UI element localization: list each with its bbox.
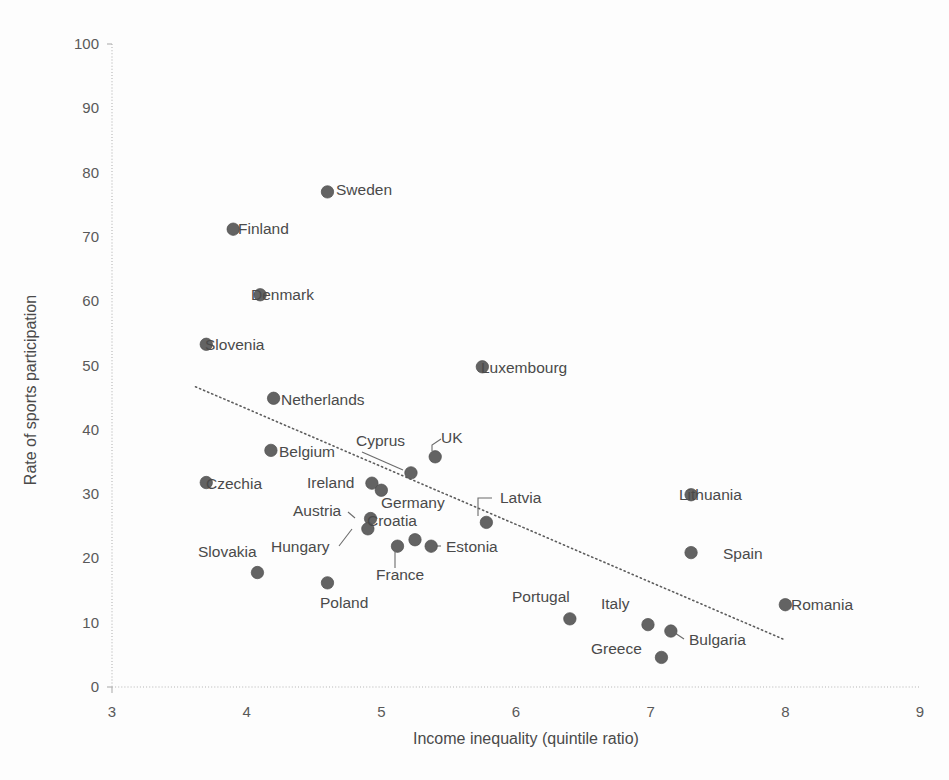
data-point-label: Slovakia	[198, 543, 257, 560]
x-tick-label: 4	[242, 703, 250, 720]
data-point-label: Sweden	[336, 181, 392, 198]
data-point-label: Latvia	[500, 489, 542, 506]
trendline-group	[195, 387, 785, 640]
data-point-label: Slovenia	[205, 336, 265, 353]
data-point-label: Estonia	[446, 538, 498, 555]
y-tick-label: 20	[82, 549, 99, 566]
chart-canvas: 01020304050607080901003456789 SwedenFinl…	[0, 0, 949, 780]
x-tick-label: 6	[512, 703, 520, 720]
label-leader-line	[432, 439, 441, 451]
data-point-marker	[655, 651, 667, 663]
data-point-label: Hungary	[271, 538, 330, 555]
y-tick-label: 100	[74, 35, 99, 52]
data-point-label: Spain	[723, 545, 763, 562]
leader-lines-group	[339, 439, 684, 639]
data-point-label: Romania	[791, 596, 853, 613]
data-point-label: Cyprus	[356, 432, 405, 449]
data-point-label: Croatia	[367, 512, 417, 529]
data-points-group	[200, 186, 791, 664]
data-point-label: UK	[441, 429, 463, 446]
data-point-marker	[425, 540, 437, 552]
y-tick-label: 80	[82, 164, 99, 181]
data-point-label: Finland	[238, 220, 289, 237]
x-tick-label: 3	[108, 703, 116, 720]
label-leader-line	[348, 512, 355, 518]
y-tick-label: 50	[82, 357, 99, 374]
data-point-marker	[429, 451, 441, 463]
y-tick-label: 60	[82, 292, 99, 309]
tick-labels-group: 01020304050607080901003456789	[74, 35, 924, 720]
data-point-marker	[267, 392, 279, 404]
x-tick-label: 8	[781, 703, 789, 720]
data-point-label: Ireland	[307, 474, 354, 491]
data-point-label: Belgium	[279, 443, 335, 460]
y-tick-label: 30	[82, 485, 99, 502]
data-point-label: Portugal	[512, 588, 570, 605]
data-point-label: Czechia	[206, 475, 262, 492]
data-point-marker	[685, 546, 697, 558]
data-point-marker	[405, 467, 417, 479]
data-point-marker	[665, 625, 677, 637]
y-tick-label: 40	[82, 421, 99, 438]
y-tick-label: 90	[82, 99, 99, 116]
data-point-label: Luxembourg	[481, 359, 567, 376]
data-point-marker	[779, 598, 791, 610]
data-point-label: Italy	[601, 595, 630, 612]
label-leader-line	[339, 529, 352, 546]
x-axis-title: Income inequality (quintile ratio)	[413, 730, 639, 747]
data-point-label: Greece	[591, 640, 642, 657]
x-tick-label: 5	[377, 703, 385, 720]
point-labels-group: SwedenFinlandDenmarkSloveniaLuxembourgNe…	[198, 181, 853, 657]
data-point-marker	[391, 540, 403, 552]
data-point-label: Germany	[381, 494, 445, 511]
y-axis-title: Rate of sports participation	[22, 295, 39, 485]
y-tick-label: 0	[91, 678, 99, 695]
scatter-chart-figure: 01020304050607080901003456789 SwedenFinl…	[0, 0, 949, 780]
data-point-marker	[409, 534, 421, 546]
x-tick-label: 7	[646, 703, 654, 720]
data-point-marker	[251, 566, 263, 578]
data-point-label: Denmark	[251, 286, 314, 303]
data-point-marker	[321, 186, 333, 198]
y-tick-label: 10	[82, 614, 99, 631]
y-tick-label: 70	[82, 228, 99, 245]
data-point-label: Poland	[320, 594, 368, 611]
data-point-label: Bulgaria	[689, 631, 746, 648]
x-tick-label: 9	[916, 703, 924, 720]
data-point-label: Netherlands	[281, 391, 365, 408]
data-point-marker	[265, 444, 277, 456]
data-point-label: France	[376, 566, 424, 583]
data-point-marker	[321, 577, 333, 589]
data-point-marker	[564, 613, 576, 625]
data-point-marker	[480, 516, 492, 528]
data-point-label: Austria	[293, 502, 342, 519]
data-point-marker	[642, 618, 654, 630]
trendline	[195, 387, 785, 640]
data-point-label: Lithuania	[679, 486, 742, 503]
